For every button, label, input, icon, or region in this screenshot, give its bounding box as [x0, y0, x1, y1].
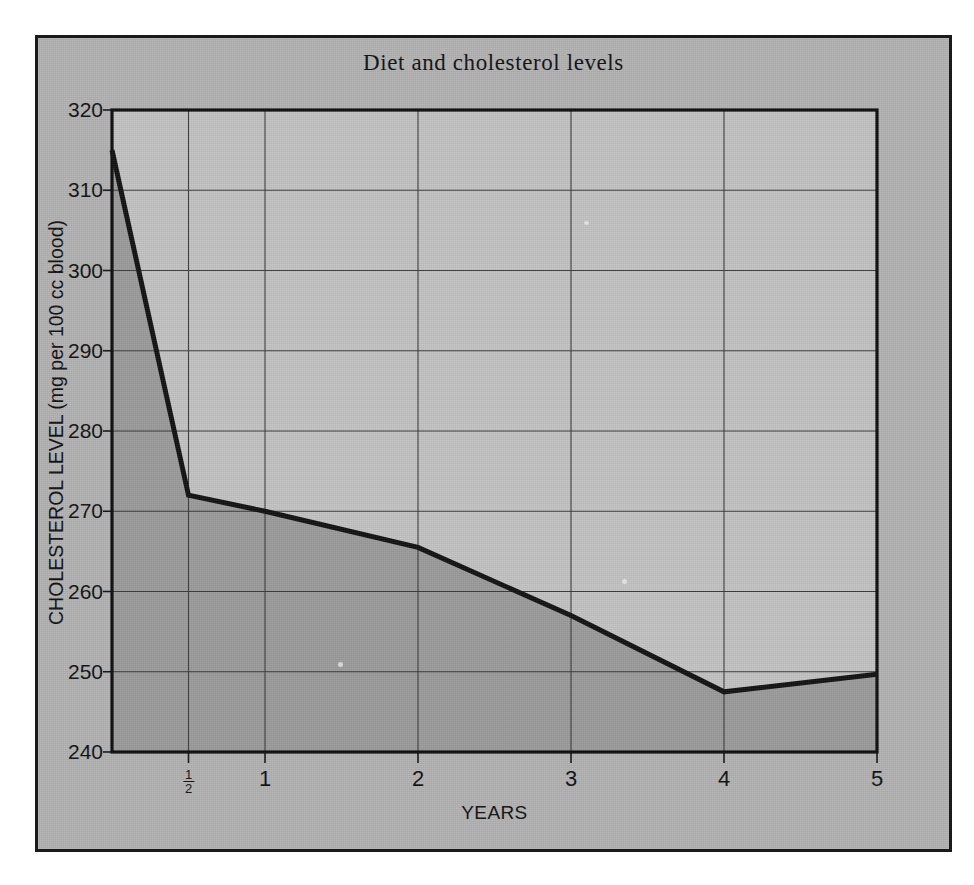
y-tick-label: 280: [68, 419, 103, 443]
y-tick-label: 240: [68, 740, 103, 764]
y-tick-label: 290: [68, 339, 103, 363]
chart-canvas: [72, 70, 917, 792]
fraction-denominator: 2: [183, 782, 194, 795]
fraction-numerator: 1: [183, 768, 194, 782]
x-tick-label: 3: [565, 766, 577, 792]
y-axis-title-label: CHOLESTEROL LEVEL (mg per 100 cc blood): [45, 102, 68, 744]
x-tick-label: 5: [871, 766, 883, 792]
y-tick-label: 260: [68, 580, 103, 604]
y-tick-label: 310: [68, 178, 103, 202]
chart-panel: Diet and cholesterol levels CHOLESTEROL …: [35, 35, 952, 852]
plot-area: CHOLESTEROL LEVEL (mg per 100 cc blood) …: [112, 110, 877, 752]
x-tick-label: 2: [412, 766, 424, 792]
x-tick-label: 1: [259, 766, 271, 792]
x-tick-label: 4: [718, 766, 730, 792]
y-tick-label: 300: [68, 259, 103, 283]
x-tick-label: 12: [183, 768, 194, 795]
y-tick-label: 250: [68, 660, 103, 684]
y-tick-label: 270: [68, 499, 103, 523]
figure-root: Diet and cholesterol levels CHOLESTEROL …: [0, 0, 974, 885]
x-axis-title: YEARS: [112, 802, 877, 824]
y-tick-label: 320: [68, 98, 103, 122]
